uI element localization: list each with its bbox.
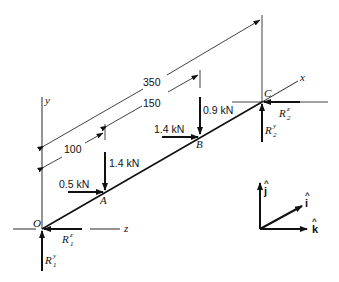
- dimension-350: 350: [44, 20, 260, 146]
- load-b-horizontal-label: 1.4 kN: [154, 123, 184, 135]
- reaction-r1z-base: R: [61, 233, 69, 245]
- reaction-r2-y: R y 2: [262, 104, 280, 142]
- unit-j-hat: ^: [264, 179, 269, 188]
- reaction-r2z-sub: 2: [287, 114, 291, 122]
- y-axis: y: [42, 94, 50, 229]
- reaction-r2y-sub: 2: [273, 131, 277, 139]
- reaction-r1-z: R z 1: [44, 223, 82, 248]
- dimension-100: 100: [44, 133, 103, 167]
- dim-150-label: 150: [143, 97, 161, 109]
- load-a-horizontal-label: 0.5 kN: [59, 178, 89, 190]
- shaft-x-axis: x: [42, 71, 327, 229]
- unit-vector-triad: j ^ i ^ k ^: [260, 179, 319, 235]
- shaft-diagram: y z x 350 150 100 1.4 kN: [0, 0, 339, 282]
- svg-text:R z 2: R z 2: [278, 97, 294, 122]
- svg-text:R y 2: R y 2: [264, 114, 280, 139]
- point-b-label: B: [196, 138, 203, 150]
- reaction-r1z-sub: 1: [70, 240, 74, 248]
- reaction-r2y-base: R: [264, 124, 272, 136]
- point-a-label: A: [99, 194, 107, 206]
- load-b-horizontal: 1.4 kN: [154, 123, 198, 137]
- load-a-vertical-label: 1.4 kN: [109, 157, 139, 169]
- y-axis-label: y: [44, 94, 50, 106]
- unit-i-hat: ^: [305, 191, 310, 200]
- z-axis-label: z: [123, 222, 129, 234]
- load-a-vertical: 1.4 kN: [105, 152, 139, 190]
- load-b-vertical-label: 0.9 kN: [203, 104, 233, 116]
- reaction-r2-z: R z 2: [264, 97, 300, 122]
- reaction-r1-y: R y 1: [42, 231, 60, 271]
- x-axis-label: x: [299, 71, 305, 83]
- unit-k-hat: ^: [312, 217, 317, 226]
- reaction-r1y-base: R: [44, 254, 52, 266]
- load-a-horizontal: 0.5 kN: [59, 178, 103, 192]
- reaction-r1y-sub: 1: [53, 261, 57, 269]
- reaction-r2y-sup: y: [272, 122, 277, 130]
- svg-text:R y 1: R y 1: [44, 244, 60, 269]
- reaction-r1z-sup: z: [69, 231, 73, 239]
- reaction-r2z-sup: z: [286, 105, 290, 113]
- point-c-label: C: [264, 87, 272, 99]
- dim-350-label: 350: [143, 76, 161, 88]
- point-o-label: O: [33, 217, 41, 229]
- svg-text:R z 1: R z 1: [61, 223, 77, 248]
- dim-100-label: 100: [64, 143, 82, 155]
- reaction-r1y-sup: y: [52, 252, 57, 260]
